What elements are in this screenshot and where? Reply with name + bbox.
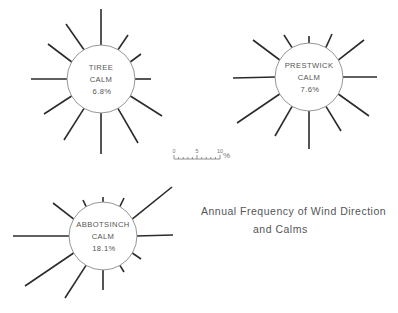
spoke-270deg xyxy=(233,77,276,78)
wind-rose-abbotsinch: ABBOTSINCHCALM18.1% xyxy=(13,187,173,298)
spoke-30deg xyxy=(119,198,124,207)
scale-bar: 0510% xyxy=(172,148,230,160)
calm-label: CALM xyxy=(298,73,321,82)
spoke-30deg xyxy=(325,34,332,48)
calm-label: CALM xyxy=(90,75,113,84)
spoke-120deg xyxy=(130,95,162,116)
diagram-title-line1: Annual Frequency of Wind Direction xyxy=(201,205,386,217)
spoke-210deg xyxy=(65,265,87,298)
calm-label: CALM xyxy=(92,232,115,241)
spoke-240deg xyxy=(237,93,280,123)
calm-value: 18.1% xyxy=(92,244,116,253)
station-name: PRESTWICK xyxy=(285,61,334,70)
scale-label: 5 xyxy=(195,148,198,154)
spoke-60deg xyxy=(338,40,364,61)
spoke-240deg xyxy=(44,95,72,114)
scale-label: 0 xyxy=(172,148,175,154)
spoke-330deg xyxy=(66,24,85,50)
calm-value: 6.8% xyxy=(93,87,112,96)
spoke-30deg xyxy=(117,35,128,50)
wind-rose-prestwick: PRESTWICKCALM7.6% xyxy=(233,34,377,149)
spoke-210deg xyxy=(64,108,85,140)
spoke-120deg xyxy=(132,252,141,259)
wind-rose-tiree: TIREECALM6.8% xyxy=(31,9,162,154)
spoke-150deg xyxy=(117,108,138,143)
calm-value: 7.6% xyxy=(301,85,320,94)
scale-unit: % xyxy=(223,151,230,160)
spoke-60deg xyxy=(132,187,172,220)
spoke-240deg xyxy=(25,252,74,286)
spoke-300deg xyxy=(253,40,280,61)
spoke-300deg xyxy=(48,44,72,63)
spoke-120deg xyxy=(338,93,369,116)
spoke-330deg xyxy=(284,35,293,48)
spoke-90deg xyxy=(136,235,173,236)
spoke-150deg xyxy=(325,106,341,131)
station-name: ABBOTSINCH xyxy=(76,220,129,229)
diagram-title-line2: and Calms xyxy=(253,223,308,235)
spoke-300deg xyxy=(53,203,74,220)
wind-rose-diagram: TIREECALM6.8%PRESTWICKCALM7.6%ABBOTSINCH… xyxy=(0,0,398,313)
station-name: TIREE xyxy=(89,63,113,72)
spoke-60deg xyxy=(130,54,141,63)
spoke-210deg xyxy=(275,106,293,136)
